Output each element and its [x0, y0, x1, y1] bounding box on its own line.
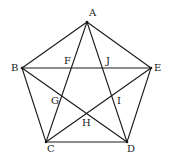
diagonal-AD [87, 22, 127, 142]
label-D: D [127, 144, 135, 154]
label-J: J [106, 56, 110, 66]
side-EA [87, 22, 151, 68]
label-A: A [89, 8, 96, 18]
side-AB [22, 22, 87, 68]
pentagon-diagram: ABECDFJGIH [0, 0, 175, 156]
diagonal-BD [22, 68, 127, 142]
label-B: B [11, 63, 18, 73]
diagonal-AC [46, 22, 87, 142]
diagonal-CE [46, 68, 151, 142]
vertex-E [150, 67, 153, 70]
side-DE [127, 68, 151, 142]
vertex-B [21, 67, 24, 70]
label-H: H [82, 118, 91, 128]
side-BC [22, 68, 46, 142]
label-I: I [117, 96, 121, 106]
pentagon-figure [0, 0, 175, 156]
label-E: E [154, 63, 161, 73]
label-C: C [47, 144, 55, 154]
vertex-A [86, 21, 89, 24]
label-G: G [51, 96, 59, 106]
label-F: F [64, 56, 71, 66]
